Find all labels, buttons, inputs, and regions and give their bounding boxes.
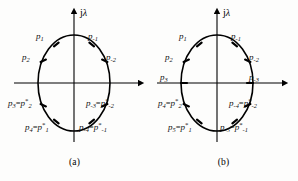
point-label-sub: 3 — [165, 76, 168, 83]
point-label-pm5: p-5=p*-1 — [220, 123, 248, 132]
panel-b: jλ p1 p-1 p2 p-2 p3 p-3 p4=p*2 p-4=p*-2 … — [149, 0, 298, 181]
point-label-sub: -1 — [93, 35, 98, 42]
caption-a: (a) — [0, 157, 149, 167]
point-label-pm4: p-4=p*-2 — [229, 99, 257, 108]
point-label-sub: 2 — [27, 56, 30, 63]
axis-label-jlambda-a: jλ — [80, 8, 87, 18]
point-label-p3: p3 — [160, 73, 168, 82]
point-label-conj-sub: 2 — [178, 102, 181, 109]
figure-root: jλ p1 p-1 p2 p-2 p3=p*2 p-3=p*-2 p4=p*1 … — [0, 0, 298, 181]
point-label-pm1: p-1 — [231, 32, 241, 41]
point-label-conj-sub: -2 — [109, 102, 114, 109]
point-label-conj-sub: 1 — [45, 126, 48, 133]
point-label-p1: p1 — [179, 32, 187, 41]
point-label-sub: 1 — [41, 35, 44, 42]
point-label-conj-sub: -2 — [252, 102, 257, 109]
point-label-p4: p4=p*2 — [158, 99, 182, 108]
point-label-sub: -2 — [254, 56, 259, 63]
point-label-pm4: p-4=p*-1 — [79, 123, 107, 132]
point-label-p4: p4=p*1 — [25, 123, 49, 132]
panel-b-diagram — [149, 0, 298, 181]
axis-label-lambda: λ — [226, 7, 230, 18]
point-label-sub: 2 — [170, 56, 173, 63]
point-label-sub: 1 — [184, 35, 187, 42]
point-label-sub: -2 — [111, 56, 116, 63]
point-label-conj-sub: 2 — [28, 102, 31, 109]
point-label-sub: -1 — [236, 35, 241, 42]
point-label-sub: -3 — [254, 76, 259, 83]
axis-label-lambda: λ — [83, 7, 87, 18]
panel-a: jλ p1 p-1 p2 p-2 p3=p*2 p-3=p*-2 p4=p*1 … — [0, 0, 149, 181]
point-label-p2: p2 — [22, 53, 30, 62]
point-label-conj-sub: 1 — [188, 126, 191, 133]
point-label-p5: p5=p*1 — [168, 123, 192, 132]
point-label-pm2: p-2 — [249, 53, 259, 62]
point-label-pm3: p-3=p*-2 — [86, 99, 114, 108]
point-label-conj-sub: -1 — [102, 126, 107, 133]
panel-a-diagram — [0, 0, 149, 181]
point-label-pm2: p-2 — [106, 53, 116, 62]
point-label-p1: p1 — [36, 32, 44, 41]
axis-label-jlambda-b: jλ — [223, 8, 230, 18]
point-label-p2: p2 — [165, 53, 173, 62]
point-label-conj-sub: -1 — [243, 126, 248, 133]
point-label-pm1: p-1 — [88, 32, 98, 41]
point-label-p3: p3=p*2 — [8, 99, 32, 108]
point-label-pm3: p-3 — [249, 73, 259, 82]
caption-b: (b) — [149, 157, 298, 167]
